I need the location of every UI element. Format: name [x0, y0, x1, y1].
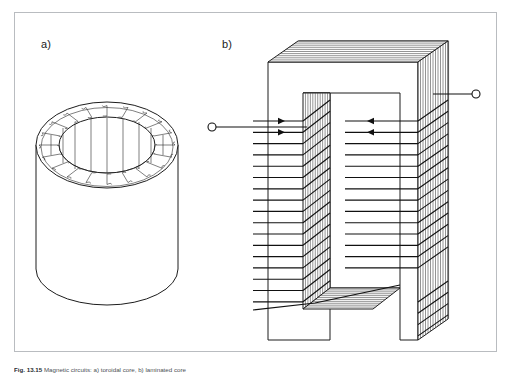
right-terminal[interactable]	[472, 90, 480, 98]
panel-label-b: b)	[222, 38, 232, 50]
figure-caption: Fig. 13.15 Magnetic circuits: a) toroida…	[14, 366, 484, 374]
laminated-core-drawing	[208, 41, 480, 340]
figure-caption-number: Fig. 13.15	[14, 366, 42, 373]
figure-page: a) b) Fig. 13.15 Magnetic circuits: a) t…	[0, 0, 512, 379]
figure-drawing	[15, 13, 496, 351]
figure-caption-text: Magnetic circuits: a) toroidal core, b) …	[44, 366, 186, 373]
left-terminal[interactable]	[208, 123, 216, 131]
panel-label-a: a)	[41, 38, 51, 50]
figure-frame-border: a) b)	[14, 12, 497, 352]
toroidal-core-drawing	[36, 102, 178, 305]
